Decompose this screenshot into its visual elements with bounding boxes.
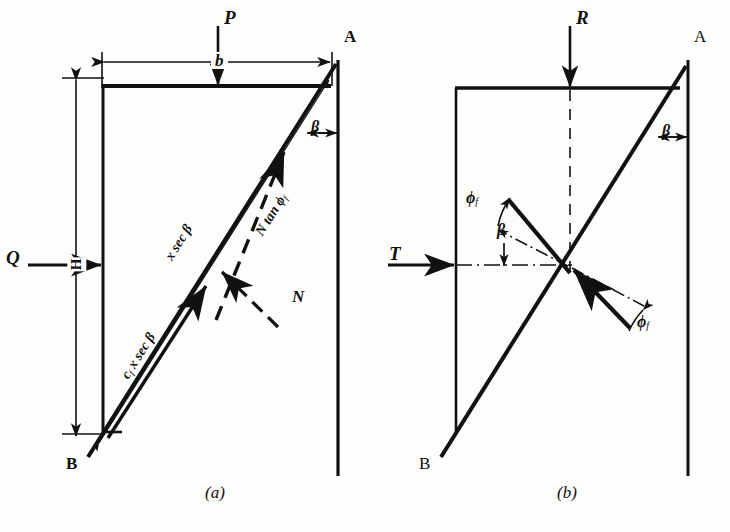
- angle-beta-label-b-top: β: [662, 123, 670, 139]
- dim-xsecbeta-line: [99, 80, 329, 443]
- panel-b-loads: [388, 26, 572, 272]
- load-q-label: Q: [6, 248, 20, 267]
- vertex-a-label-a: A: [344, 28, 356, 45]
- load-p-label: P: [224, 8, 236, 27]
- angle-phi-left-text: ϕ: [466, 189, 475, 206]
- reaction-lower-right: [574, 270, 630, 328]
- angle-phi-label-left: ϕf: [466, 190, 478, 207]
- angle-phi-label-right: ϕf: [637, 314, 649, 331]
- angle-phi-right-text: ϕ: [637, 313, 646, 330]
- angle-phi-left-subscript: f: [475, 196, 478, 207]
- normal-dashdot-lower-right: [572, 268, 644, 306]
- normal-dashdot-upper-left: [498, 230, 568, 266]
- figure-canvas: P b A B Q H β x sec β N tan ϕf N cf x se…: [0, 0, 730, 532]
- load-t-label: T: [389, 244, 401, 263]
- slip-plane-a: [88, 64, 336, 457]
- load-r-label: R: [576, 8, 589, 27]
- angle-beta-label-a: β: [311, 119, 319, 135]
- angle-phi-right-subscript: f: [646, 320, 649, 331]
- force-cohesion-arrow: [108, 286, 206, 438]
- caption-b: (b): [557, 484, 577, 501]
- caption-a: (a): [205, 484, 225, 501]
- dim-h-label: H: [67, 258, 86, 272]
- force-normal-arrow: [222, 272, 278, 327]
- vertex-b-label-a: B: [66, 455, 77, 472]
- panel-a-forces: [108, 152, 284, 438]
- force-normal-label: N: [292, 288, 304, 305]
- vertex-b-label-b: B: [419, 455, 430, 472]
- dim-b-label: b: [211, 52, 228, 69]
- angle-beta-label-b-mid: β: [497, 222, 505, 238]
- slip-plane-b: [441, 66, 686, 457]
- vertex-a-label-b: A: [694, 28, 706, 45]
- diagram-svg: [0, 0, 730, 532]
